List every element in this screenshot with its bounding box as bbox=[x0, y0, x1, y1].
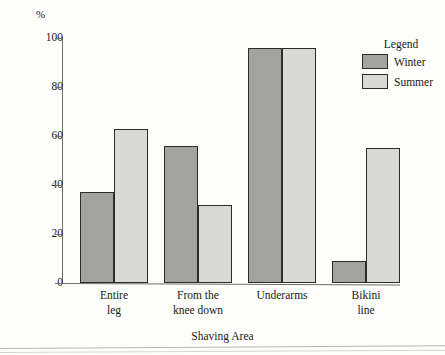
y-tick-mark bbox=[55, 87, 63, 88]
y-tick-mark bbox=[55, 283, 63, 284]
bar-winter-1 bbox=[164, 146, 198, 283]
x-category-label-3: Bikiniline bbox=[314, 288, 418, 317]
bar-summer-1 bbox=[198, 205, 232, 283]
bar-summer-3 bbox=[366, 148, 400, 283]
y-tick-label: 60 bbox=[31, 129, 63, 141]
y-tick-label: 80 bbox=[31, 80, 63, 92]
bar-winter-3 bbox=[332, 261, 366, 283]
y-tick-mark bbox=[55, 38, 63, 39]
legend-entry-winter: Winter bbox=[362, 54, 442, 69]
legend-label: Summer bbox=[394, 76, 433, 88]
legend-swatch-winter bbox=[362, 54, 388, 69]
bar-chart-figure: % 100806040200 EntirelegFrom theknee dow… bbox=[0, 0, 445, 355]
legend: Legend WinterSummer bbox=[362, 38, 442, 94]
legend-title: Legend bbox=[364, 38, 438, 50]
plot-area: % 100806040200 EntirelegFrom theknee dow… bbox=[0, 0, 445, 355]
legend-swatch-summer bbox=[362, 74, 388, 89]
y-tick-mark bbox=[55, 234, 63, 235]
bar-winter-2 bbox=[248, 48, 282, 283]
y-tick-label: 0 bbox=[31, 276, 63, 288]
bar-summer-0 bbox=[114, 129, 148, 283]
x-category-label-line: line bbox=[314, 303, 418, 318]
legend-entries: WinterSummer bbox=[362, 54, 442, 89]
x-category-label-line: knee down bbox=[146, 303, 250, 318]
x-axis-title: Shaving Area bbox=[0, 330, 445, 342]
y-tick-label: 40 bbox=[31, 178, 63, 190]
y-tick-label: 100 bbox=[31, 31, 63, 43]
y-axis-unit-label: % bbox=[36, 8, 45, 20]
y-tick-mark bbox=[55, 136, 63, 137]
bar-summer-2 bbox=[282, 48, 316, 283]
y-tick-label: 20 bbox=[31, 227, 63, 239]
y-tick-mark bbox=[55, 185, 63, 186]
bar-winter-0 bbox=[80, 192, 114, 283]
legend-entry-summer: Summer bbox=[362, 74, 442, 89]
x-axis-line bbox=[62, 283, 400, 286]
x-category-label-line: Bikini bbox=[314, 288, 418, 303]
y-axis-line bbox=[62, 37, 63, 284]
legend-label: Winter bbox=[394, 56, 425, 68]
